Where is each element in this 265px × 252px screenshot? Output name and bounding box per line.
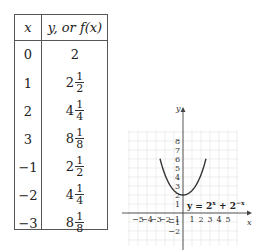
function-graph: y x −5−4−3−2−112345−2−112345678 y = 2x +…	[0, 0, 265, 252]
svg-text:5: 5	[175, 164, 180, 173]
svg-text:−1: −1	[168, 218, 180, 227]
equation-label: y = 2x + 2−x	[186, 199, 245, 211]
y-axis-arrow-icon	[181, 107, 186, 112]
svg-text:1: 1	[189, 215, 194, 224]
x-axis-arrow-icon	[247, 211, 252, 216]
svg-text:−2: −2	[168, 227, 180, 236]
x-axis-label: x	[247, 218, 252, 227]
svg-text:6: 6	[175, 155, 180, 164]
svg-text:7: 7	[175, 146, 180, 155]
svg-text:1: 1	[175, 200, 180, 209]
svg-text:4: 4	[175, 173, 180, 182]
svg-text:5: 5	[225, 215, 230, 224]
svg-text:3: 3	[207, 215, 212, 224]
svg-text:3: 3	[175, 182, 180, 191]
svg-text:2: 2	[198, 215, 203, 224]
y-axis-label: y	[175, 104, 181, 113]
svg-text:4: 4	[216, 215, 221, 224]
svg-text:8: 8	[175, 137, 180, 146]
